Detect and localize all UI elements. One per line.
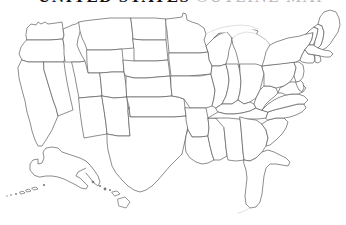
state-wyoming [87,49,124,73]
state-iowa [169,52,212,76]
state-wisconsin [206,31,232,66]
state-oregon [19,39,65,62]
state-nebraska [123,60,170,78]
state-south-dakota [133,39,168,61]
state-rhode-island [315,55,321,63]
state-kansas [126,76,172,97]
state-new-jersey [294,62,304,82]
state-oklahoma [127,96,186,117]
state-montana [79,18,134,50]
us-states-outline-map [0,0,346,225]
state-minnesota [166,13,208,53]
map-page: UNITED STATES OUTLINE MAP [0,0,346,225]
inset-alaska [30,147,90,189]
inset-alaska-aleutians [6,184,45,197]
state-north-dakota [131,18,166,40]
state-colorado [100,72,127,98]
florida-keys-outline [238,208,250,213]
state-washington [26,22,64,40]
